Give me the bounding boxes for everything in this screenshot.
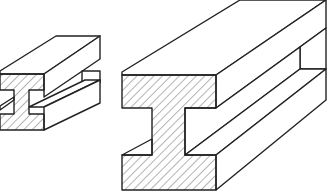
small-i-beam [0, 36, 100, 130]
figure-canvas [0, 0, 334, 193]
large-i-beam [122, 0, 326, 190]
